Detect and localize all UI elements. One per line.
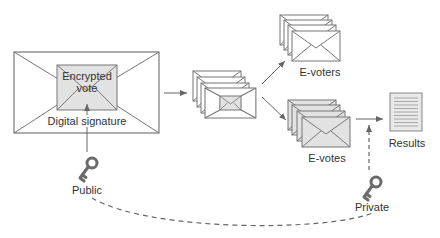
public-key-icon	[80, 158, 97, 181]
arrow-to-votes	[262, 97, 286, 120]
e-voters-label: E-voters	[300, 66, 341, 78]
encrypted-vote-label-line2: vote	[57, 82, 117, 94]
results-label: Results	[389, 137, 426, 149]
digital-signature-label: Digital signature	[47, 115, 128, 127]
key-pair-link	[92, 198, 375, 226]
e-votes-label: E-votes	[308, 152, 345, 164]
private-key-label: Private	[355, 201, 389, 213]
e-voters-stack	[280, 15, 340, 61]
encrypted-vote-label: Encrypted vote	[57, 70, 117, 94]
results-document-icon	[390, 93, 422, 131]
public-key-label: Public	[72, 184, 102, 196]
private-key-icon	[364, 177, 381, 200]
e-votes-stack	[288, 100, 350, 147]
arrow-to-voters	[262, 61, 285, 84]
encrypted-vote-label-line1: Encrypted	[57, 70, 117, 82]
mixed-envelope-stack	[193, 71, 256, 118]
